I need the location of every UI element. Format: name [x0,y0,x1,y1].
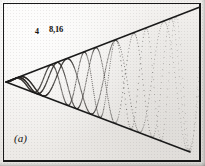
figure-panel: 4 8,16 (a) [0,0,205,166]
figure-border-frame [3,3,201,162]
curve-label-8-16: 8,16 [49,25,63,34]
curve-label-4: 4 [35,28,39,36]
panel-label: (a) [14,133,27,144]
